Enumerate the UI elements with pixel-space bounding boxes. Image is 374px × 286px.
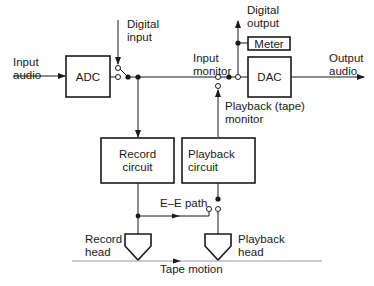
playback-head-label: Playback head xyxy=(238,233,285,258)
input-audio-label: Input audio xyxy=(13,56,41,81)
digital-output-label: Digital output xyxy=(247,4,280,29)
playback-switch-contact xyxy=(216,207,221,212)
record-circuit-block: Record circuit xyxy=(101,138,174,183)
svg-text:circuit: circuit xyxy=(188,161,219,173)
playback-switch-pivot xyxy=(215,196,220,201)
tape-recorder-block-diagram: Input audio ADC Digital input Input moni… xyxy=(0,0,374,286)
svg-text:output: output xyxy=(247,17,280,29)
svg-text:Playback: Playback xyxy=(188,148,235,160)
svg-text:Input: Input xyxy=(13,56,39,68)
tape-motion-label: Tape motion xyxy=(160,263,223,275)
svg-text:Input: Input xyxy=(193,52,219,64)
playback-monitor-label: Playback (tape) monitor xyxy=(225,100,305,125)
svg-text:Output: Output xyxy=(329,52,364,64)
svg-text:ADC: ADC xyxy=(76,71,100,83)
playback-circuit-block: Playback circuit xyxy=(182,138,255,183)
svg-text:head: head xyxy=(85,246,111,258)
svg-text:Digital: Digital xyxy=(127,18,159,30)
svg-text:input: input xyxy=(127,31,153,43)
svg-text:Record: Record xyxy=(119,148,156,160)
record-head-icon xyxy=(125,234,151,260)
svg-text:DAC: DAC xyxy=(257,71,281,83)
svg-text:Playback: Playback xyxy=(238,233,285,245)
dac-block: DAC xyxy=(248,57,291,97)
adc-block: ADC xyxy=(66,56,110,97)
svg-text:head: head xyxy=(238,246,264,258)
svg-text:monitor: monitor xyxy=(225,113,264,125)
ee-path-label: E–E path xyxy=(160,197,207,209)
meter-block: Meter xyxy=(248,37,290,50)
svg-text:Record: Record xyxy=(85,233,122,245)
playback-head-icon xyxy=(205,234,231,260)
svg-text:monitor: monitor xyxy=(193,65,232,77)
digital-input-label: Digital input xyxy=(127,18,159,43)
svg-text:Digital: Digital xyxy=(247,4,279,16)
svg-text:circuit: circuit xyxy=(122,161,153,173)
output-audio-label: Output audio xyxy=(329,52,364,77)
record-head-label: Record head xyxy=(85,233,122,258)
input-monitor-label: Input monitor xyxy=(193,52,232,77)
svg-text:audio: audio xyxy=(329,65,357,77)
monitor-switch xyxy=(216,74,249,88)
svg-text:audio: audio xyxy=(13,69,41,81)
svg-text:Playback (tape): Playback (tape) xyxy=(225,100,305,112)
ee-path-arrow xyxy=(172,214,180,219)
svg-text:Meter: Meter xyxy=(254,38,284,50)
